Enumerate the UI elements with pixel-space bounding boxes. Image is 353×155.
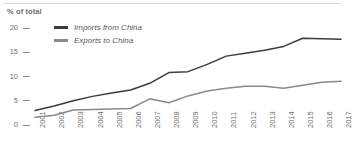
series-line-imports-from-china xyxy=(35,38,341,110)
x-axis-tick-label: 2017 xyxy=(344,111,353,128)
